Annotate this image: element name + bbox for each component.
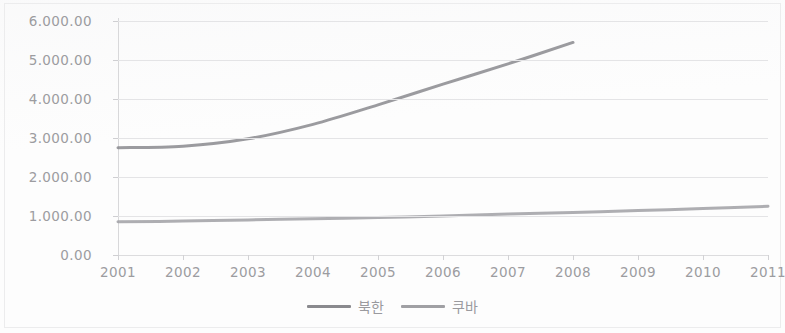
legend-label: 쿠바 <box>452 296 479 316</box>
y-axis-label: 4.000.00 <box>0 91 92 107</box>
x-axis-tick <box>313 255 314 260</box>
y-axis-tick <box>113 99 118 100</box>
y-axis-label: 5.000.00 <box>0 52 92 68</box>
y-axis-tick <box>113 21 118 22</box>
x-axis-tick <box>248 255 249 260</box>
x-axis-label: 2010 <box>685 264 721 280</box>
x-axis-label: 2008 <box>555 264 591 280</box>
x-axis-label: 2011 <box>750 264 785 280</box>
x-axis-label: 2004 <box>295 264 331 280</box>
chart-legend: 북한쿠바 <box>0 296 785 316</box>
x-axis-label: 2002 <box>165 264 201 280</box>
x-axis-label: 2009 <box>620 264 656 280</box>
x-axis-label: 2001 <box>100 264 136 280</box>
legend-item[interactable]: 쿠바 <box>401 296 479 316</box>
x-axis-tick <box>703 255 704 260</box>
gridline <box>118 138 768 139</box>
y-axis-tick <box>113 60 118 61</box>
gridline <box>118 99 768 100</box>
x-axis-label: 2006 <box>425 264 461 280</box>
y-axis-tick <box>113 138 118 139</box>
y-axis-tick <box>113 216 118 217</box>
x-axis-tick <box>768 255 769 260</box>
series-line <box>118 206 768 222</box>
x-axis-tick <box>378 255 379 260</box>
legend-line-swatch-icon <box>401 305 445 308</box>
gridline <box>118 60 768 61</box>
y-axis-tick <box>113 177 118 178</box>
y-axis-label: 2.000.00 <box>0 169 92 185</box>
y-axis-label: 6.000.00 <box>0 13 92 29</box>
gridline <box>118 177 768 178</box>
x-axis-tick <box>183 255 184 260</box>
legend-label: 북한 <box>358 296 385 316</box>
x-axis-label: 2003 <box>230 264 266 280</box>
legend-item[interactable]: 북한 <box>307 296 385 316</box>
x-axis-tick <box>638 255 639 260</box>
x-axis-tick <box>573 255 574 260</box>
x-axis-label: 2007 <box>490 264 526 280</box>
x-axis-label: 2005 <box>360 264 396 280</box>
x-axis-tick <box>443 255 444 260</box>
plot-area: 0.001.000.002.000.003.000.004.000.005.00… <box>118 21 768 255</box>
y-axis-label: 3.000.00 <box>0 130 92 146</box>
gridline <box>118 21 768 22</box>
gridline <box>118 216 768 217</box>
y-axis-label: 0.00 <box>0 247 92 263</box>
x-axis-tick <box>118 255 119 260</box>
y-axis-label: 1.000.00 <box>0 208 92 224</box>
series-line <box>118 42 573 147</box>
legend-line-swatch-icon <box>307 305 351 308</box>
x-axis-tick <box>508 255 509 260</box>
line-chart: 0.001.000.002.000.003.000.004.000.005.00… <box>0 0 785 333</box>
